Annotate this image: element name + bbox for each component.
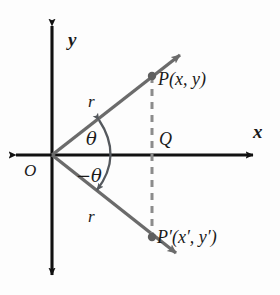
radius-lower-label: r [88, 208, 95, 225]
point-p-prime-label: P′(x′, y′) [157, 228, 217, 246]
point-p-label: P(x, y) [158, 70, 206, 88]
angle-negative-theta-label: −θ [76, 167, 102, 185]
radius-upper-label: r [88, 93, 95, 110]
point-q-label: Q [159, 130, 172, 148]
x-axis-label: x [253, 122, 263, 141]
angle-theta-label: θ [86, 130, 97, 148]
point-p-prime-marker [148, 233, 156, 241]
polar-reflection-figure: y x O P(x, y) P′(x′, y′) Q r r θ −θ [0, 0, 280, 295]
point-p-marker [148, 72, 156, 80]
figure-canvas [0, 0, 280, 295]
y-axis-label: y [68, 30, 76, 49]
origin-label: O [24, 162, 36, 179]
